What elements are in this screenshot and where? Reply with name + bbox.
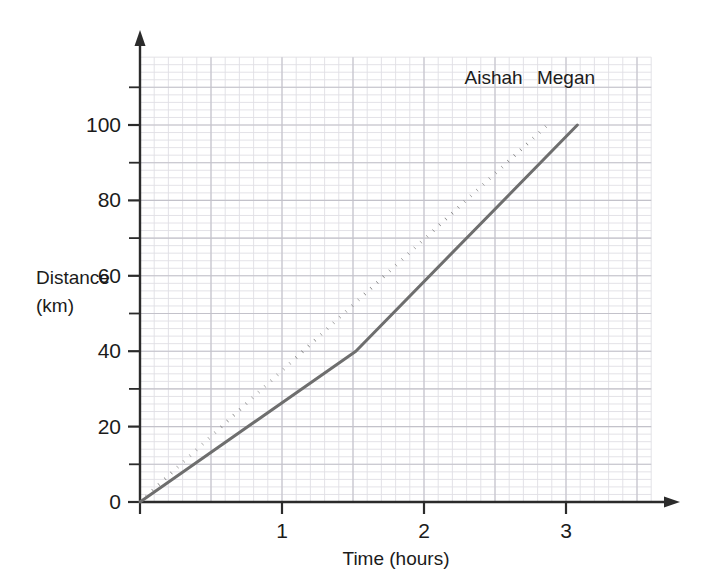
x-axis-title: Time (hours): [343, 548, 450, 569]
series-label-aishah: Aishah: [465, 67, 523, 88]
x-axis-tick-label: 2: [418, 519, 430, 542]
y-axis-tick-label: 100: [86, 113, 121, 136]
y-axis-tick-label: 0: [109, 490, 121, 513]
y-axis-tick-label: 40: [98, 339, 121, 362]
chart-background: [0, 0, 709, 586]
y-axis-title-line1: Distance: [36, 267, 110, 288]
x-axis-tick-label: 3: [560, 519, 572, 542]
chart-canvas: 020406080100 123 AishahMegan Distance (k…: [0, 0, 709, 586]
y-axis-title-line2: (km): [36, 295, 74, 316]
y-axis-tick-label: 20: [98, 415, 121, 438]
series-label-megan: Megan: [537, 67, 595, 88]
y-axis-tick-label: 80: [98, 188, 121, 211]
distance-time-graph: 020406080100 123 AishahMegan Distance (k…: [0, 0, 709, 586]
x-axis-tick-label: 1: [276, 519, 288, 542]
